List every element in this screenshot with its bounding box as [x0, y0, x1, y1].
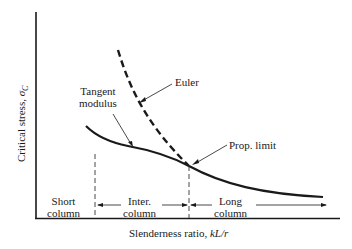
long-column-curve: [189, 166, 323, 197]
region-inter-line2: column: [123, 207, 156, 219]
tangent-label-line2: modulus: [79, 97, 117, 109]
region-long-column: Long column: [214, 195, 247, 219]
prop-limit-leader: [192, 145, 227, 165]
tangent-modulus-curve: [86, 126, 189, 166]
prop-limit-label: Prop. limit: [229, 139, 276, 151]
y-axis-variable: σ: [15, 91, 27, 96]
region-short-line1: Short: [47, 195, 80, 207]
y-axis-label-text: Critical stress,: [15, 96, 27, 162]
euler-label: Euler: [175, 76, 199, 88]
x-axis-variable: kL/r: [210, 227, 228, 239]
x-axis-label-text: Slenderness ratio,: [129, 227, 210, 239]
long-column-arrows: [190, 203, 327, 207]
region-inter-column: Inter. column: [123, 195, 156, 219]
x-axis-label: Slenderness ratio, kL/r: [129, 227, 228, 239]
region-long-line1: Long: [214, 195, 247, 207]
region-long-line2: column: [214, 207, 247, 219]
y-axis-label: Critical stress, σC: [15, 86, 30, 162]
euler-leader: [139, 84, 172, 103]
region-short-line2: column: [47, 207, 80, 219]
region-short-column: Short column: [47, 195, 80, 219]
tangent-modulus-label: Tangent modulus: [79, 85, 117, 109]
euler-curve: [118, 50, 189, 166]
tangent-label-line1: Tangent: [79, 85, 117, 97]
y-axis-subscript: C: [21, 86, 30, 91]
region-inter-line1: Inter.: [123, 195, 156, 207]
